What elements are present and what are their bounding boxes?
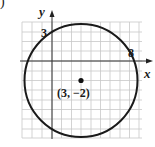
y-axis-arrow-icon [50, 10, 55, 17]
y-tick-label: 3 [41, 27, 47, 39]
center-point [78, 78, 83, 83]
x-axis-label: x [144, 67, 151, 80]
y-axis-label: y [39, 5, 45, 18]
x-tick-label: 8 [128, 47, 134, 59]
center-label: (3, −2) [57, 87, 90, 99]
circle-graph [0, 0, 155, 147]
x-axis-arrow-icon [146, 59, 153, 64]
